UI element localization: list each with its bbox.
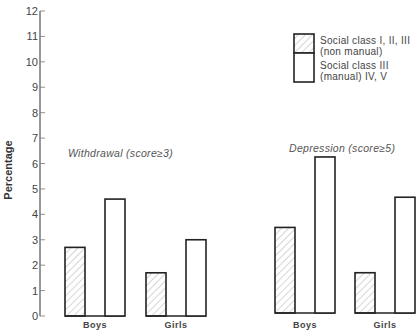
y-axis-ticks: 0123456789101112	[26, 5, 45, 322]
y-axis-label: Percentage	[2, 140, 14, 199]
category-label-depression-girls: Girls	[373, 320, 396, 330]
bars	[65, 157, 415, 316]
legend-label-manual-line1: Social class III	[320, 60, 389, 71]
group-title-withdrawal: Withdrawal (score≥3)	[68, 147, 173, 159]
y-tick-label: 12	[26, 5, 38, 17]
y-tick-label: 2	[32, 259, 38, 271]
y-tick-label: 8	[32, 107, 38, 119]
y-tick-label: 7	[32, 132, 38, 144]
legend: Social class I, II, III (non manual) Soc…	[294, 34, 410, 82]
bar-depression-girls-open	[395, 197, 415, 313]
bar-depression-boys-hatched	[275, 227, 295, 313]
bar-withdrawal-girls-open	[186, 240, 206, 316]
legend-label-manual-line2: (manual) IV, V	[320, 71, 387, 82]
y-tick-label: 1	[32, 285, 38, 297]
category-label-withdrawal-girls: Girls	[164, 320, 187, 330]
y-tick-label: 9	[32, 81, 38, 93]
legend-swatch-open	[294, 53, 314, 82]
bar-withdrawal-boys-open	[105, 199, 125, 316]
bar-depression-girls-hatched	[355, 273, 375, 313]
bar-depression-boys-open	[315, 157, 335, 313]
category-label-depression-boys: Boys	[293, 320, 317, 330]
y-tick-label: 10	[26, 56, 38, 68]
bar-chart: Percentage 0123456789101112 Withdrawal (…	[0, 0, 418, 335]
group-title-depression: Depression (score≥5)	[289, 142, 395, 154]
y-tick-label: 5	[32, 183, 38, 195]
y-tick-label: 3	[32, 234, 38, 246]
y-tick-label: 4	[32, 208, 38, 220]
y-tick-label: 11	[27, 30, 38, 42]
legend-swatch-hatched	[294, 34, 314, 53]
bar-withdrawal-boys-hatched	[65, 247, 85, 316]
y-tick-label: 6	[32, 158, 38, 170]
category-label-withdrawal-boys: Boys	[83, 320, 107, 330]
y-tick-label: 0	[32, 310, 38, 322]
legend-label-nonmanual-line1: Social class I, II, III	[320, 35, 410, 46]
legend-label-nonmanual-line2: (non manual)	[320, 46, 383, 57]
bar-withdrawal-girls-hatched	[146, 273, 166, 316]
